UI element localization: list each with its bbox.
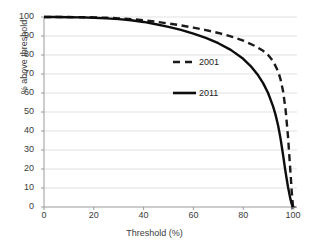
legend-label-2001: 2001 bbox=[199, 57, 219, 67]
y-tick-label: 30 bbox=[8, 144, 34, 154]
y-tick-label: 90 bbox=[8, 30, 34, 40]
x-tick-label: 60 bbox=[178, 210, 208, 220]
chart-container: 2001 2011 % above threshold Threshold (%… bbox=[0, 0, 309, 245]
y-tick-label: 70 bbox=[8, 68, 34, 78]
tick-marks bbox=[41, 17, 293, 210]
x-tick-label: 80 bbox=[228, 210, 258, 220]
y-tick-label: 60 bbox=[8, 87, 34, 97]
y-tick-label: 20 bbox=[8, 163, 34, 173]
gridlines bbox=[44, 17, 297, 188]
legend-line-samples bbox=[173, 62, 196, 93]
x-tick-label: 100 bbox=[278, 210, 308, 220]
y-tick-label: 40 bbox=[8, 125, 34, 135]
y-tick-label: 50 bbox=[8, 106, 34, 116]
x-axis-title: Threshold (%) bbox=[0, 228, 309, 238]
chart-plot-area bbox=[0, 0, 309, 245]
y-tick-label: 100 bbox=[8, 11, 34, 21]
x-tick-label: 40 bbox=[129, 210, 159, 220]
x-tick-label: 0 bbox=[29, 210, 59, 220]
x-tick-label: 20 bbox=[79, 210, 109, 220]
y-tick-label: 10 bbox=[8, 182, 34, 192]
legend-label-2011: 2011 bbox=[199, 88, 218, 98]
y-tick-label: 80 bbox=[8, 49, 34, 59]
